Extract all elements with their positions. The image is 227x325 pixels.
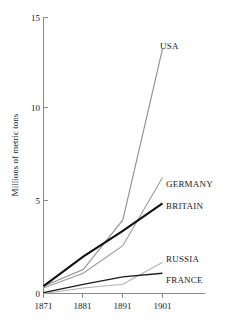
x-tick-label-1881: 1881 xyxy=(74,301,92,311)
series-line-usa xyxy=(44,49,163,286)
chart-figure: 15 10 5 0 1871 1881 1891 1901 Millions o… xyxy=(0,0,227,325)
series-line-france xyxy=(44,273,163,292)
x-tick-label-1891: 1891 xyxy=(114,301,132,311)
y-tick-label-15: 15 xyxy=(31,13,41,23)
line-chart-canvas: 15 10 5 0 1871 1881 1891 1901 Millions o… xyxy=(0,0,227,325)
series-line-britain xyxy=(44,203,163,286)
y-tick-label-0: 0 xyxy=(36,289,41,299)
series-label-russia: RUSSIA xyxy=(166,254,200,264)
y-tick-label-10: 10 xyxy=(31,103,41,113)
series-label-usa: USA xyxy=(160,41,179,51)
y-axis-title: Millions of metric tons xyxy=(10,113,20,196)
series-label-france: FRANCE xyxy=(166,275,203,285)
y-tick-label-5: 5 xyxy=(36,196,41,206)
x-tick-label-1901: 1901 xyxy=(154,301,172,311)
series-label-germany: GERMANY xyxy=(166,179,213,189)
series-line-germany xyxy=(44,178,163,288)
series-label-britain: BRITAIN xyxy=(166,201,203,211)
x-tick-label-1871: 1871 xyxy=(35,301,53,311)
